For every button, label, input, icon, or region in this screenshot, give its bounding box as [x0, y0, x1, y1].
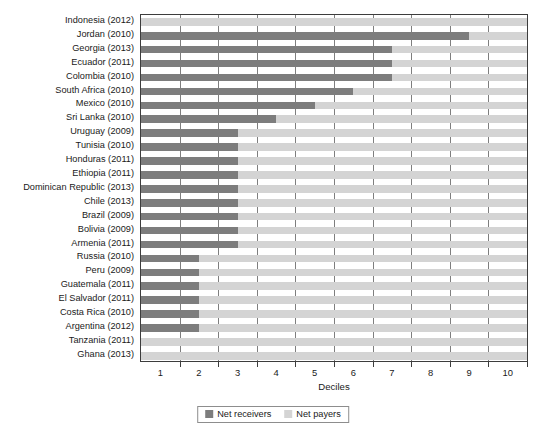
legend-label-net-payers: Net payers	[296, 409, 340, 419]
category-label: Indonesia (2012)	[0, 14, 139, 28]
bar-row	[141, 293, 527, 307]
bar-row	[141, 196, 527, 210]
bar-segment-net-payers	[199, 324, 527, 332]
bar-row	[141, 112, 527, 126]
bar-segment-net-payers	[238, 185, 528, 193]
x-tick-mark	[257, 362, 258, 367]
bar-row	[141, 238, 527, 252]
category-label: Jordan (2010)	[0, 28, 139, 42]
x-tick-label: 3	[235, 367, 240, 378]
bar-segment-net-receivers	[141, 269, 199, 277]
x-tick-label: 1	[158, 367, 163, 378]
bar-segment-net-receivers	[141, 199, 238, 207]
bar-row	[141, 57, 527, 71]
category-label: Armenia (2011)	[0, 237, 139, 251]
bar-row	[141, 43, 527, 57]
bar-row	[141, 279, 527, 293]
bar-row	[141, 252, 527, 266]
bar-row	[141, 71, 527, 85]
bar-segment-net-payers	[141, 352, 527, 360]
bar-segment-net-payers	[238, 157, 528, 165]
bar-segment-net-payers	[238, 143, 528, 151]
category-label: Brazil (2009)	[0, 209, 139, 223]
bar-segment-net-payers	[199, 296, 527, 304]
bar-segment-net-receivers	[141, 255, 199, 263]
x-tick-mark	[411, 362, 412, 367]
bar-segment-net-receivers	[141, 74, 392, 82]
legend-item-net-payers: Net payers	[284, 409, 340, 419]
category-label: Dominican Republic (2013)	[0, 181, 139, 195]
bar-segment-net-receivers	[141, 185, 238, 193]
x-axis: 12345678910	[140, 362, 528, 380]
bar-segment-net-receivers	[141, 282, 199, 290]
bar-segment-net-payers	[469, 32, 527, 40]
bar-row	[141, 85, 527, 99]
bar-segment-net-receivers	[141, 227, 238, 235]
legend-item-net-receivers: Net receivers	[205, 409, 271, 419]
bar-row	[141, 168, 527, 182]
category-label: Costa Rica (2010)	[0, 306, 139, 320]
category-label: Tunisia (2010)	[0, 139, 139, 153]
bar-row	[141, 335, 527, 349]
category-label: Argentina (2012)	[0, 320, 139, 334]
x-tick-label: 8	[428, 367, 433, 378]
bar-segment-net-receivers	[141, 324, 199, 332]
bar-segment-net-payers	[392, 74, 527, 82]
bar-row	[141, 321, 527, 335]
bar-row	[141, 210, 527, 224]
bar-row	[141, 15, 527, 29]
category-label: Sri Lanka (2010)	[0, 111, 139, 125]
x-tick-mark	[373, 362, 374, 367]
category-label: Tanzania (2011)	[0, 334, 139, 348]
category-label: Chile (2013)	[0, 195, 139, 209]
category-label: South Africa (2010)	[0, 84, 139, 98]
bar-segment-net-payers	[141, 338, 527, 346]
bar-segment-net-payers	[276, 115, 527, 123]
bar-row	[141, 126, 527, 140]
bar-segment-net-payers	[238, 129, 528, 137]
bar-segment-net-payers	[199, 269, 527, 277]
bar-row	[141, 99, 527, 113]
bar-row	[141, 154, 527, 168]
x-axis-title: Deciles	[140, 381, 528, 392]
bar-row	[141, 307, 527, 321]
category-axis-labels: Indonesia (2012)Jordan (2010)Georgia (20…	[0, 14, 139, 362]
bar-segment-net-payers	[199, 310, 527, 318]
bar-segment-net-payers	[199, 282, 527, 290]
x-tick-label: 7	[389, 367, 394, 378]
plot-area	[140, 14, 528, 362]
x-tick-mark	[527, 362, 528, 367]
bar-segment-net-receivers	[141, 157, 238, 165]
x-tick-label: 5	[312, 367, 317, 378]
x-tick-label: 4	[273, 367, 278, 378]
category-label: Colombia (2010)	[0, 70, 139, 84]
category-label: Uruguay (2009)	[0, 125, 139, 139]
legend-label-net-receivers: Net receivers	[217, 409, 271, 419]
x-tick-mark	[180, 362, 181, 367]
category-label: Peru (2009)	[0, 264, 139, 278]
bar-segment-net-payers	[392, 60, 527, 68]
bar-segment-net-payers	[238, 213, 528, 221]
legend-swatch-net-payers	[284, 410, 292, 418]
bar-segment-net-receivers	[141, 115, 276, 123]
category-label: Georgia (2013)	[0, 42, 139, 56]
bar-segment-net-receivers	[141, 129, 238, 137]
x-tick-mark	[218, 362, 219, 367]
category-label: Ghana (2013)	[0, 348, 139, 362]
bar-segment-net-receivers	[141, 143, 238, 151]
bar-segment-net-receivers	[141, 241, 238, 249]
bar-segment-net-receivers	[141, 310, 199, 318]
bar-segment-net-receivers	[141, 102, 315, 110]
x-tick-label: 10	[502, 367, 512, 378]
bar-segment-net-payers	[238, 171, 528, 179]
category-label: Honduras (2011)	[0, 153, 139, 167]
bar-segment-net-payers	[392, 46, 527, 54]
bar-segment-net-receivers	[141, 296, 199, 304]
bar-segment-net-receivers	[141, 60, 392, 68]
bar-row	[141, 349, 527, 361]
legend-swatch-net-receivers	[205, 410, 213, 418]
bar-segment-net-receivers	[141, 171, 238, 179]
plot-inner	[141, 15, 527, 361]
bar-segment-net-receivers	[141, 46, 392, 54]
bar-segment-net-payers	[141, 18, 527, 26]
